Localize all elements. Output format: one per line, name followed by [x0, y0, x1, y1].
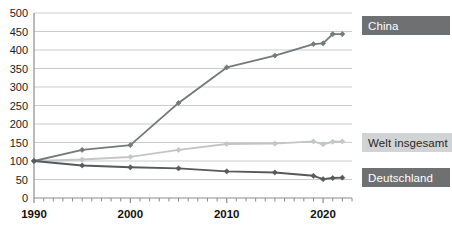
- data-point-marker: [272, 170, 277, 175]
- y-axis-tick-label: 0: [22, 192, 28, 204]
- legend-item-china[interactable]: China: [362, 16, 450, 35]
- y-axis-tick-label: 500: [10, 7, 28, 19]
- y-axis-tick-label: 450: [10, 26, 28, 38]
- data-point-marker: [128, 154, 133, 159]
- series-deutschland: [31, 158, 345, 181]
- x-axis-tick-label: 2010: [214, 208, 240, 220]
- y-axis-tick-label: 400: [10, 44, 28, 56]
- data-point-marker: [311, 173, 316, 178]
- data-point-marker: [80, 147, 85, 152]
- y-axis-tick-label: 250: [10, 100, 28, 112]
- data-point-marker: [272, 53, 277, 58]
- data-point-marker: [311, 41, 316, 46]
- x-axis-tick-label: 2000: [118, 208, 144, 220]
- data-point-marker: [272, 141, 277, 146]
- y-axis-tick-label: 200: [10, 118, 28, 130]
- legend-label-china: China: [368, 20, 399, 32]
- y-axis-tick-label: 50: [16, 174, 28, 186]
- data-point-marker: [340, 31, 345, 36]
- legend-label-welt-insgesamt: Welt insgesamt: [368, 137, 448, 149]
- y-axis-tick-label: 150: [10, 137, 28, 149]
- data-point-marker: [311, 139, 316, 144]
- data-point-marker: [80, 163, 85, 168]
- series-line: [34, 161, 342, 179]
- data-point-marker: [320, 177, 325, 182]
- data-point-marker: [176, 147, 181, 152]
- x-axis-tick-label: 2020: [310, 208, 336, 220]
- data-point-marker: [128, 165, 133, 170]
- legend-label-deutschland: Deutschland: [368, 172, 433, 184]
- line-chart: 5004504003503002502001501005001990200020…: [0, 0, 452, 231]
- data-point-marker: [176, 166, 181, 171]
- data-point-marker: [224, 169, 229, 174]
- y-axis-tick-label: 350: [10, 63, 28, 75]
- legend-item-welt-insgesamt[interactable]: Welt insgesamt: [362, 133, 452, 152]
- data-point-marker: [31, 158, 36, 163]
- data-point-marker: [330, 139, 335, 144]
- data-point-marker: [340, 139, 345, 144]
- y-axis-tick-label: 300: [10, 81, 28, 93]
- series-china: [31, 31, 345, 163]
- x-axis-tick-label: 1990: [21, 208, 47, 220]
- legend-item-deutschland[interactable]: Deutschland: [362, 168, 450, 187]
- y-axis-tick-label: 100: [10, 155, 28, 167]
